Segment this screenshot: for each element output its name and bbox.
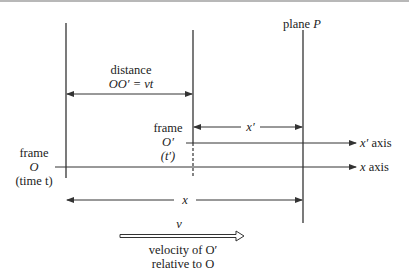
plane-p-label: plane P (283, 17, 321, 31)
velocity-line-1: velocity of O′ (138, 243, 228, 257)
distance-formula-label: OO′ = vt (101, 77, 161, 91)
frame-o-symbol: O (22, 160, 46, 174)
velocity-description-line2: relative to O (152, 257, 214, 271)
x-prime-axis-word: axis (371, 136, 391, 150)
x-axis-label: x axis (360, 160, 389, 174)
x-axis-symbol: x (360, 160, 366, 174)
frame-o-prime-time: (t′) (155, 149, 181, 163)
frame-o-prime-word: frame (150, 121, 186, 135)
x-prime-axis-symbol: x′ (360, 136, 368, 150)
diagram-canvas (0, 0, 409, 277)
frame-o-word: frame (16, 146, 52, 160)
x-prime-axis-label: x′ axis (360, 136, 392, 150)
plane-symbol: P (313, 17, 321, 31)
distance-word-label: distance (106, 63, 156, 77)
frame-o-prime-symbol: O′ (155, 135, 181, 149)
x-axis-word: axis (369, 160, 389, 174)
velocity-arrow-icon (120, 231, 244, 241)
plane-word: plane (283, 17, 310, 31)
velocity-line-2: relative to O (138, 257, 228, 271)
x-dimension-label: x (178, 193, 192, 207)
velocity-description-line1: velocity of O′ (149, 243, 218, 257)
x-prime-dimension-label: x′ (243, 120, 258, 134)
frame-o-time: (time t) (12, 174, 56, 188)
velocity-symbol-label: v (172, 217, 186, 231)
